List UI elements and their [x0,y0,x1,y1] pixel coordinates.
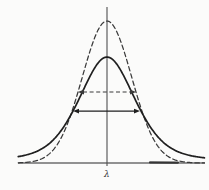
solid-profile-curve [18,57,204,158]
plot-canvas: λ [0,0,209,190]
fwhm-arrowhead-right [134,109,140,114]
spectral-line-profile-figure: λ [0,0,209,190]
x-axis-label: λ [103,169,110,179]
axes [18,7,205,166]
